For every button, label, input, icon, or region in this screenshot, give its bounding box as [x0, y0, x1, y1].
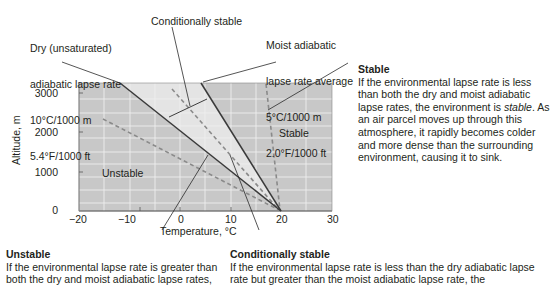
moist-adiabatic-callout: Moist adiabatic lapse rate average 5°C/1…	[266, 15, 353, 171]
x-tick: 30	[327, 214, 339, 225]
x-axis-label: Temperature, °C	[160, 226, 237, 237]
stable-region-label: Stable	[279, 127, 309, 139]
callout-line: 2.0°F/1000 ft	[266, 147, 353, 159]
y-tick: 0	[52, 205, 58, 216]
x-tick: 0	[178, 214, 184, 225]
x-tick: −20	[69, 214, 87, 225]
conditional-description: Conditionally stable If the environmenta…	[230, 248, 554, 286]
y-tick: 1000	[35, 167, 58, 178]
y-axis-label: Altitude, m	[11, 115, 22, 165]
x-tick: −10	[118, 214, 136, 225]
y-tick: 3000	[35, 88, 58, 99]
conditional-heading: Conditionally stable	[230, 248, 554, 261]
unstable-body: If the environmental lapse rate is great…	[6, 261, 224, 286]
stable-body-emphasis: stable	[504, 101, 532, 113]
y-tick: 2000	[35, 127, 58, 138]
callout-line: 5°C/1000 m	[266, 111, 353, 123]
callout-line: Moist adiabatic	[266, 39, 353, 51]
stable-heading: Stable	[358, 63, 554, 76]
unstable-heading: Unstable	[6, 248, 224, 261]
unstable-region-label: Unstable	[102, 167, 143, 179]
conditional-callout: Conditionally stable	[151, 15, 242, 27]
callout-line: 5.4°F/1000 ft	[30, 150, 121, 162]
unstable-description: Unstable If the environmental lapse rate…	[6, 248, 224, 286]
x-tick: 20	[276, 214, 288, 225]
stable-description: Stable If the environmental lapse rate i…	[358, 63, 554, 164]
callout-line: 10°C/1000 m	[30, 114, 121, 126]
stable-body: If the environmental lapse rate is less …	[358, 76, 554, 164]
conditional-body: If the environmental lapse rate is less …	[230, 261, 554, 286]
x-tick: 10	[225, 214, 237, 225]
callout-line: lapse rate average	[266, 75, 353, 87]
callout-line: Dry (unsaturated)	[30, 42, 121, 54]
